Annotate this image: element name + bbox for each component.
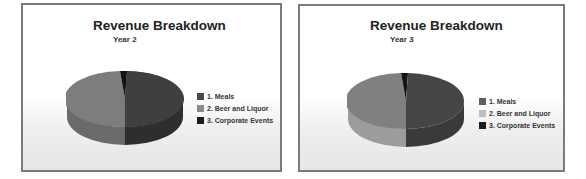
- chart-subtitle: Year 3: [390, 35, 414, 44]
- legend-swatch: [479, 98, 486, 105]
- legend: 1. Meals 2. Beer and Liquor 3. Corporate…: [197, 90, 273, 126]
- legend-item-beer-and-liquor: 2. Beer and Liquor: [479, 107, 555, 119]
- chart-title: Revenue Breakdown: [370, 18, 503, 33]
- legend-label: 2. Beer and Liquor: [207, 105, 268, 112]
- chart-title: Revenue Breakdown: [93, 18, 226, 33]
- pie-chart: [66, 70, 184, 156]
- legend-item-corporate-events: 3. Corporate Events: [197, 114, 273, 126]
- legend-swatch: [197, 117, 204, 124]
- legend-label: 3. Corporate Events: [489, 122, 555, 129]
- legend-swatch: [197, 105, 204, 112]
- legend: 1. Meals 2. Beer and Liquor 3. Corporate…: [479, 95, 555, 131]
- legend-swatch: [479, 110, 486, 117]
- chart-year-3: Revenue Breakdown Year 3 1. Meals 2. Bee…: [298, 4, 565, 172]
- chart-subtitle: Year 2: [113, 35, 137, 44]
- pie-chart: [347, 72, 465, 158]
- legend-item-meals: 1. Meals: [197, 90, 273, 102]
- legend-label: 2. Beer and Liquor: [489, 110, 550, 117]
- legend-item-beer-and-liquor: 2. Beer and Liquor: [197, 102, 273, 114]
- legend-item-corporate-events: 3. Corporate Events: [479, 119, 555, 131]
- legend-label: 1. Meals: [489, 98, 516, 105]
- legend-label: 3. Corporate Events: [207, 117, 273, 124]
- chart-year-2: Revenue Breakdown Year 2 1. Meals 2. Bee…: [21, 3, 282, 172]
- legend-swatch: [197, 93, 204, 100]
- legend-swatch: [479, 122, 486, 129]
- legend-label: 1. Meals: [207, 93, 234, 100]
- legend-item-meals: 1. Meals: [479, 95, 555, 107]
